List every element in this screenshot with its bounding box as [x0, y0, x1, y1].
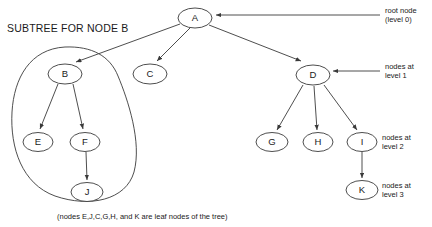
- node-g[interactable]: G: [256, 133, 288, 152]
- edge-d-g: [277, 85, 303, 130]
- annotation-level-3-line2: level 3: [382, 190, 411, 199]
- annotation-level-1: nodes at level 1: [385, 62, 414, 80]
- annotation-level-1-line2: level 1: [385, 71, 414, 80]
- edge-b-e: [40, 84, 58, 129]
- node-b-label: B: [62, 68, 68, 79]
- annotation-root-node: root node (level 0): [385, 6, 417, 24]
- node-f-label: F: [82, 136, 88, 147]
- node-e-label: E: [35, 136, 41, 147]
- node-f[interactable]: F: [70, 133, 100, 152]
- node-c[interactable]: C: [133, 64, 167, 84]
- node-h-label: H: [315, 136, 322, 147]
- node-a[interactable]: A: [178, 8, 212, 28]
- node-i-label: I: [361, 136, 364, 147]
- tree-diagram: A B C D E F G H: [0, 0, 432, 227]
- node-d[interactable]: D: [296, 65, 330, 85]
- edge-f-j: [86, 152, 87, 180]
- edge-a-d: [209, 25, 301, 61]
- annotation-level-3-line1: nodes at: [382, 181, 411, 190]
- node-b[interactable]: B: [48, 64, 82, 84]
- diagram-caption: (nodes E,J,C,G,H, and K are leaf nodes o…: [57, 212, 228, 221]
- node-a-label: A: [192, 12, 199, 23]
- annotation-level-1-line1: nodes at: [385, 62, 414, 71]
- node-j[interactable]: J: [71, 183, 103, 202]
- edge-b-f: [73, 84, 83, 129]
- annotation-level-2-line1: nodes at: [382, 133, 411, 142]
- node-k[interactable]: K: [346, 181, 378, 200]
- node-j-label: J: [85, 186, 90, 197]
- diagram-canvas: A B C D E F G H: [0, 0, 432, 227]
- annotation-root-node-line2: (level 0): [385, 15, 417, 24]
- node-h[interactable]: H: [303, 133, 333, 152]
- edge-d-i: [324, 85, 357, 130]
- node-d-label: D: [310, 69, 317, 80]
- node-c-label: C: [147, 68, 154, 79]
- edge-a-c: [157, 28, 190, 61]
- node-i[interactable]: I: [347, 133, 377, 152]
- node-g-label: G: [268, 136, 275, 147]
- edge-d-h: [314, 86, 317, 130]
- annotation-level-2: nodes at level 2: [382, 133, 411, 151]
- annotation-root-node-line1: root node: [385, 6, 417, 15]
- page-title: SUBTREE FOR NODE B: [7, 22, 128, 34]
- node-e[interactable]: E: [23, 133, 53, 152]
- annotation-level-2-line2: level 2: [382, 142, 411, 151]
- node-k-label: K: [359, 184, 366, 195]
- annotation-level-3: nodes at level 3: [382, 181, 411, 199]
